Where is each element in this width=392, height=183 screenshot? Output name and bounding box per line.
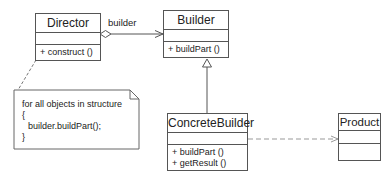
class-builder[interactable]: Builder + buildPart () xyxy=(163,10,229,58)
note-line: builder.buildPart(); xyxy=(22,121,134,132)
class-product[interactable]: Product xyxy=(338,113,381,161)
generalization-triangle-icon xyxy=(203,59,212,67)
note-text: for all objects in structure { builder.b… xyxy=(22,99,134,143)
operations-compartment: + construct () xyxy=(36,45,100,58)
operation: + getResult () xyxy=(172,158,247,169)
operations-compartment: + buildPart () + getResult () xyxy=(168,145,247,169)
operations-compartment: + buildPart () xyxy=(164,42,228,55)
attributes-compartment xyxy=(164,30,228,42)
class-director[interactable]: Director + construct () xyxy=(35,13,101,61)
attributes-compartment xyxy=(339,131,380,144)
operation: + buildPart () xyxy=(168,44,228,55)
note-line: { xyxy=(22,110,134,121)
attributes-compartment xyxy=(168,133,247,145)
note-anchor-line xyxy=(18,60,36,90)
class-name: ConcreteBuilder xyxy=(168,114,247,133)
operation: + construct () xyxy=(40,47,100,58)
class-name: Director xyxy=(36,14,100,33)
class-name: Builder xyxy=(164,11,228,30)
attributes-compartment xyxy=(36,33,100,45)
class-name: Product xyxy=(339,114,380,131)
note-line: } xyxy=(22,132,134,143)
aggregation-diamond-icon xyxy=(100,31,111,38)
aggregation-role-label: builder xyxy=(108,17,137,28)
operation: + buildPart () xyxy=(172,147,247,158)
note-line: for all objects in structure xyxy=(22,99,134,110)
class-concrete-builder[interactable]: ConcreteBuilder + buildPart () + getResu… xyxy=(167,113,248,171)
